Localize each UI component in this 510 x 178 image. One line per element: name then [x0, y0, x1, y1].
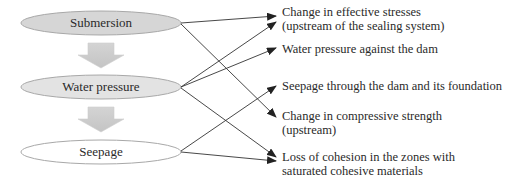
- effect-seepage-dam: Seepage through the dam and its foundati…: [282, 79, 502, 93]
- node-seepage-label: Seepage: [21, 144, 181, 160]
- link-seepage-seepage-dam: [181, 86, 276, 151]
- effect-line: Seepage through the dam and its foundati…: [282, 79, 502, 93]
- effect-water-pressure-dam: Water pressure against the dam: [282, 42, 438, 56]
- effect-line: Change in compressive strength: [282, 109, 442, 123]
- link-water-pressure-loss-cohesion: [181, 88, 276, 157]
- effect-line: Change in effective stresses: [282, 5, 444, 19]
- down-arrow-icon: [78, 107, 124, 132]
- link-submersion-compressive-strength: [181, 24, 276, 117]
- effect-line: Water pressure against the dam: [282, 42, 438, 56]
- effect-loss-cohesion: Loss of cohesion in the zones with satur…: [282, 150, 455, 178]
- effect-line: (upstream): [282, 123, 442, 137]
- down-arrow-icon: [78, 43, 124, 68]
- effect-line: Loss of cohesion in the zones with: [282, 150, 455, 164]
- node-water-pressure-label: Water pressure: [21, 79, 181, 95]
- effect-compressive-strength: Change in compressive strength (upstream…: [282, 109, 442, 137]
- link-water-pressure-effective-stresses: [181, 22, 276, 87]
- effect-line: (upstream of the sealing system): [282, 19, 444, 33]
- link-water-pressure-dam: [181, 48, 276, 87]
- link-seepage-loss-cohesion: [181, 152, 276, 161]
- effect-line: saturated cohesive materials: [282, 164, 455, 178]
- link-submersion-effective-stresses: [181, 16, 276, 23]
- effect-effective-stresses: Change in effective stresses (upstream o…: [282, 5, 444, 33]
- node-submersion-label: Submersion: [21, 15, 181, 31]
